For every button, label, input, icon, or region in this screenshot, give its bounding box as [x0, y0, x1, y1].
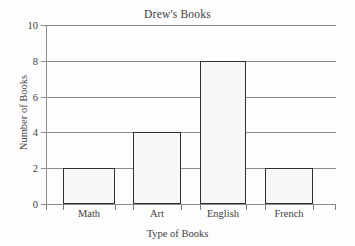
gridline-10 — [46, 25, 336, 26]
chart-title: Drew's Books — [0, 8, 355, 20]
bar-french[interactable] — [265, 168, 313, 204]
x-tick-mark-0 — [46, 205, 47, 210]
bar-english[interactable] — [200, 61, 246, 204]
gridline-8 — [46, 61, 336, 62]
gridline-4 — [46, 132, 336, 133]
y-tick-label-10: 10 — [10, 21, 38, 32]
bar-math[interactable] — [63, 168, 115, 204]
plot-area — [46, 25, 336, 204]
chart-figure: Drew's Books 10 8 6 4 2 0 Number of Book… — [0, 0, 355, 246]
y-axis-title: Number of Books — [18, 43, 29, 183]
bar-art[interactable] — [133, 132, 181, 204]
x-tick-mark-9 — [335, 205, 336, 210]
x-axis-line — [46, 204, 336, 205]
x-axis-title: Type of Books — [0, 228, 355, 239]
y-tick-label-0: 0 — [10, 200, 38, 211]
x-tick-label-french: French — [249, 209, 329, 220]
gridline-6 — [46, 97, 336, 98]
